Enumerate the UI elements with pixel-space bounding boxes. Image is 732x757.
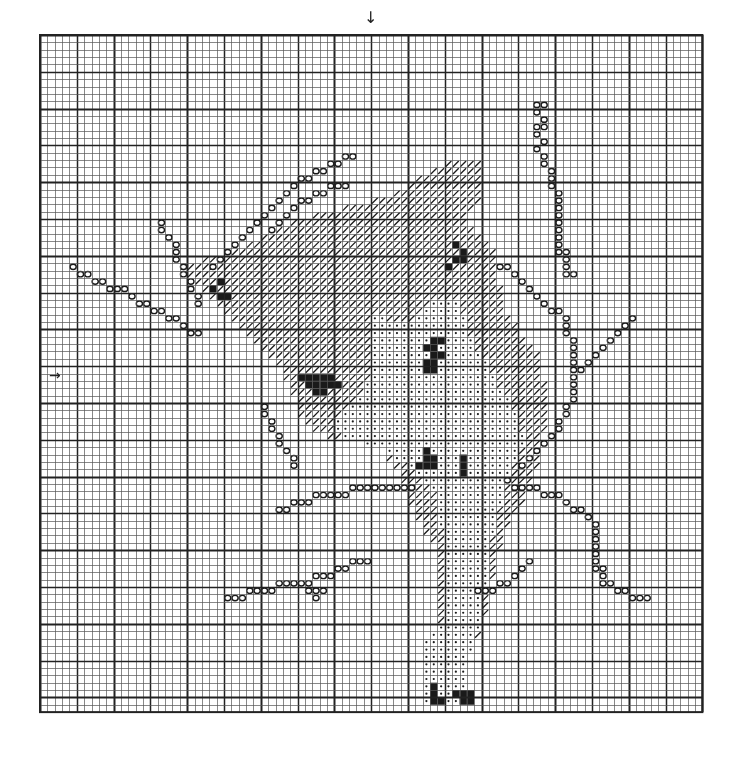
cross-stitch-chart: ↓ → Cross-stitch pattern chart <box>0 0 732 757</box>
pattern-grid-canvas <box>0 0 732 757</box>
center-row-arrow-icon: → <box>49 368 61 382</box>
center-column-arrow-icon: ↓ <box>364 10 377 26</box>
